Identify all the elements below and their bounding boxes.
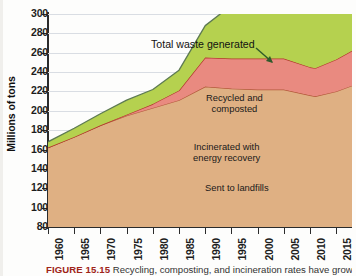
figure-caption-text: Recycling, composting, and incineration … [113, 264, 352, 275]
figure-caption: FIGURE 15.15 Recycling, composting, and … [46, 264, 352, 276]
annotation-recycled-line2: composted [206, 103, 263, 114]
annotation-incinerated-with-energy-recovery: Incinerated with energy recovery [193, 141, 260, 163]
x-axis-tick-label: 2015 [341, 238, 353, 261]
annotation-incinerated-line2: energy recovery [193, 152, 260, 163]
x-axis-tick-label: 2010 [315, 238, 327, 261]
annotation-total-waste-generated: Total waste generated [151, 39, 255, 50]
x-axis-tick-label: 1985 [184, 238, 196, 261]
x-axis-tick [179, 228, 180, 234]
x-axis-tick [74, 228, 75, 234]
x-axis-tick-label: 1995 [236, 238, 248, 261]
total-waste-arrow-icon [255, 47, 285, 69]
x-axis-tick [100, 228, 101, 234]
annotation-sent-to-landfills: Sent to landfills [205, 182, 269, 193]
x-axis-tick-label: 2000 [263, 238, 275, 261]
x-axis-tick [284, 228, 285, 234]
x-axis-tick-label: 1975 [132, 238, 144, 261]
x-axis-tick-label: 1960 [53, 238, 65, 261]
x-axis-tick-label: 1990 [210, 238, 222, 261]
figure-container: Millions of tons 80100120140160180200220… [0, 0, 356, 276]
x-axis-tick [231, 228, 232, 234]
annotation-incinerated-line1: Incinerated with [193, 141, 260, 152]
x-axis-tick [205, 228, 206, 234]
x-axis-tick [127, 228, 128, 234]
x-axis-tick-label: 2005 [289, 238, 301, 261]
x-axis-tick-label: 1965 [79, 238, 91, 261]
annotation-recycled-and-composted: Recycled and composted [206, 92, 263, 114]
x-axis-tick-label: 1970 [105, 238, 117, 261]
x-axis-tick [258, 228, 259, 234]
figure-number: FIGURE 15.15 [46, 264, 110, 275]
x-axis-tick [153, 228, 154, 234]
x-axis-tick-label: 1980 [158, 238, 170, 261]
x-axis-tick [336, 228, 337, 234]
x-axis-tick [310, 228, 311, 234]
annotation-recycled-line1: Recycled and [206, 92, 263, 103]
